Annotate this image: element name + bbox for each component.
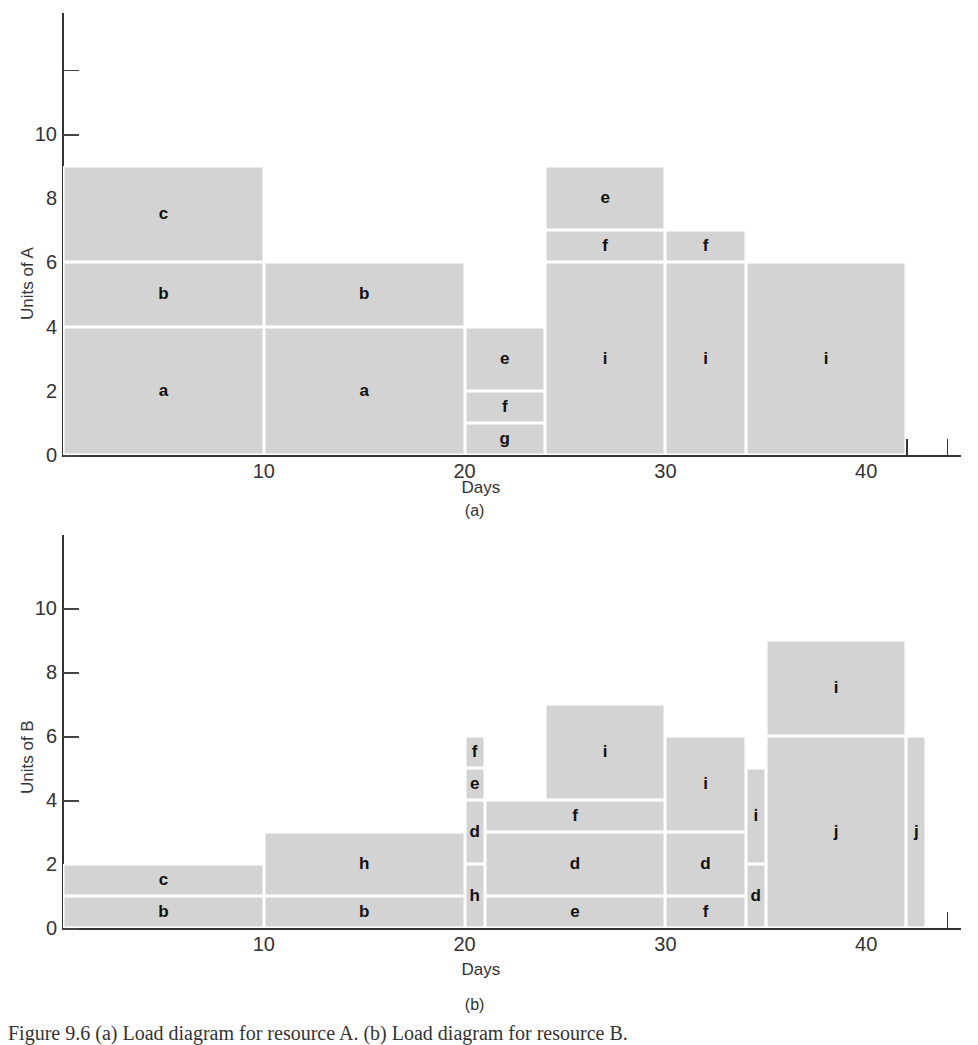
y-tick [63,736,79,738]
load-block-d: d [485,832,666,896]
y-tick-label: 8 [27,188,57,208]
y-tick [63,800,79,802]
block-label: d [570,854,580,874]
load-block-c: c [63,864,264,896]
y-tick-label: 10 [27,598,57,618]
x-tick-label: 10 [244,460,284,483]
load-block-i: i [746,768,766,864]
load-block-i: i [545,262,665,455]
block-label: f [472,742,478,762]
x-axis [62,928,961,930]
block-label: i [753,806,758,826]
block-label: c [159,204,168,224]
block-label: h [469,886,479,906]
load-block-e: e [545,166,665,230]
x-axis-title: Days [462,478,501,498]
load-block-f: f [485,800,666,832]
block-label: e [600,188,609,208]
load-block-j: j [906,736,926,928]
x-tick-label: 30 [645,460,685,483]
y-tick [63,455,79,457]
block-label: b [359,902,369,922]
block-label: e [500,349,509,369]
block-label: i [603,349,608,369]
x-axis-title: Days [462,960,501,980]
load-block-i: i [545,704,665,800]
block-label: j [834,822,839,842]
y-axis-title: Units of A [18,247,38,320]
load-diagram-resource-a: 024681010203040 abcabgfeifeifi Units of … [0,0,978,520]
x-tick-label: 40 [846,460,886,483]
load-block-d: d [665,832,745,896]
x-tick-label: 30 [645,933,685,956]
load-block-b: b [264,896,465,928]
y-axis-title: Units of B [18,720,38,794]
block-label: c [159,870,168,890]
block-label: i [703,349,708,369]
load-block-e: e [465,327,545,391]
y-tick-label: 2 [27,381,57,401]
load-block-f: f [665,896,745,928]
block-label: i [824,349,829,369]
block-label: d [469,822,479,842]
y-tick-label: 10 [27,124,57,144]
load-block-g: g [465,423,545,455]
panel-label: (a) [455,502,495,520]
load-block-b: b [63,262,264,326]
block-label: i [603,742,608,762]
block-label: d [751,886,761,906]
y-tick-label: 0 [27,445,57,465]
block-label: f [703,236,709,256]
block-label: f [502,397,508,417]
y-tick [63,928,79,930]
y-tick [63,70,79,72]
figure-caption: Figure 9.6 (a) Load diagram for resource… [0,1022,978,1045]
block-label: a [159,381,168,401]
load-block-f: f [665,230,745,262]
load-block-a: a [264,327,465,455]
block-label: f [703,902,709,922]
block-label: e [470,774,479,794]
load-block-i: i [766,640,907,736]
block-label: e [570,902,579,922]
block-label: f [602,236,608,256]
load-block-h: h [264,832,465,896]
load-block-i: i [665,736,745,832]
load-block-f: f [465,391,545,423]
x-tick-label: 40 [846,933,886,956]
x-tick-label: 20 [445,933,485,956]
load-block-i: i [665,262,745,455]
block-label: b [158,902,168,922]
block-label: i [703,774,708,794]
block-label: j [914,822,919,842]
y-tick-label: 0 [27,918,57,938]
load-block-f: f [545,230,665,262]
x-axis [62,455,961,457]
panel-label: (b) [455,996,495,1014]
load-block-f: f [465,736,485,768]
y-tick [63,134,79,136]
x-tick [947,912,949,928]
block-label: d [700,854,710,874]
block-label: i [834,678,839,698]
load-diagram-resource-b: 024681010203040 bcbhhdefedfifdidijij Uni… [0,520,978,1000]
y-tick [63,672,79,674]
block-label: b [359,284,369,304]
block-label: h [359,854,369,874]
load-block-i: i [746,262,907,455]
block-label: b [158,284,168,304]
x-tick [906,439,908,455]
load-block-e: e [485,896,666,928]
y-tick-label: 2 [27,854,57,874]
load-block-c: c [63,166,264,262]
load-block-d: d [746,864,766,928]
load-block-a: a [63,327,264,455]
block-label: g [500,429,510,449]
load-block-j: j [766,736,907,928]
load-block-b: b [63,896,264,928]
y-tick [63,608,79,610]
y-tick-label: 8 [27,662,57,682]
load-block-e: e [465,768,485,800]
block-label: a [359,381,368,401]
load-block-h: h [465,864,485,928]
